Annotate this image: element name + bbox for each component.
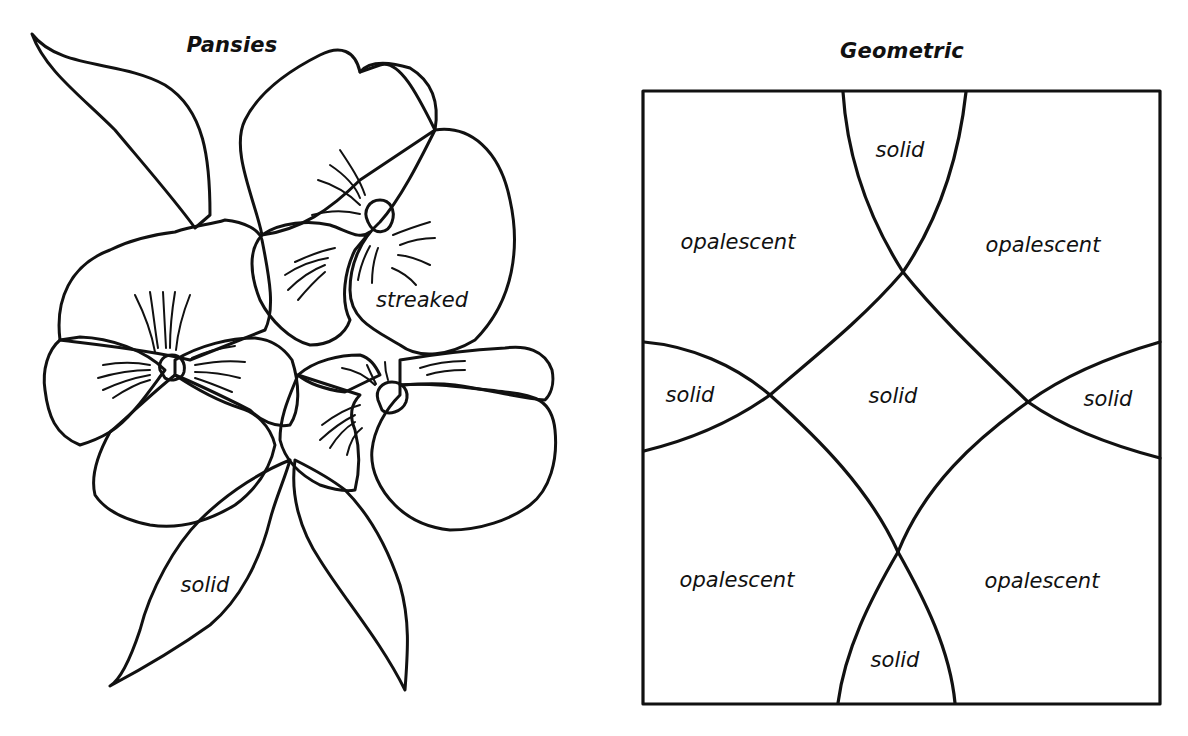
label-streaked: streaked <box>376 288 468 312</box>
arc-bottom-right <box>898 552 955 703</box>
label-top-solid: solid <box>876 138 925 162</box>
label-middle-left-solid: solid <box>666 383 715 407</box>
line-art-drawing <box>0 0 1188 736</box>
pansies-illustration <box>32 34 556 690</box>
upper-pansy-back-right-petal <box>360 63 436 130</box>
label-upper-left-opalescent: opalescent <box>681 230 796 254</box>
arc-center-lower-left <box>770 395 898 552</box>
middle-pansy-top-left-petal <box>298 355 380 392</box>
upper-pansy-right-petal <box>350 129 514 354</box>
geometric-title: Geometric <box>840 39 964 63</box>
middle-pansy-right-petal <box>372 384 556 530</box>
left-pansy-right-petal <box>175 338 298 426</box>
label-bottom-solid: solid <box>871 648 920 672</box>
label-lower-right-opalescent: opalescent <box>985 569 1100 593</box>
stained-glass-pattern-page: Pansies Geometric streaked solid solid o… <box>0 0 1188 736</box>
label-leaf-solid: solid <box>181 573 230 597</box>
arc-top-right <box>903 92 966 272</box>
label-lower-left-opalescent: opalescent <box>680 568 795 592</box>
bottom-right-leaf <box>294 460 408 690</box>
left-pansy-bottom-petal <box>94 375 275 526</box>
label-middle-right-solid: solid <box>1084 387 1133 411</box>
arc-center-upper-right <box>903 272 1028 402</box>
arc-center-lower-right <box>898 402 1028 552</box>
arc-top-left <box>843 92 903 272</box>
arc-bottom-left <box>838 552 898 703</box>
pansies-title: Pansies <box>186 33 277 57</box>
label-center-solid: solid <box>869 384 918 408</box>
arc-center-upper-left <box>770 272 903 395</box>
upper-pansy-center <box>366 200 393 232</box>
top-leaf <box>32 34 210 228</box>
left-pansy-left-petal <box>44 337 165 445</box>
middle-pansy-top-right-petal <box>400 347 553 400</box>
label-upper-right-opalescent: opalescent <box>986 233 1101 257</box>
middle-pansy-streaks <box>320 361 465 455</box>
upper-pansy-back-left-petal <box>240 50 435 235</box>
middle-pansy-center <box>377 382 407 413</box>
